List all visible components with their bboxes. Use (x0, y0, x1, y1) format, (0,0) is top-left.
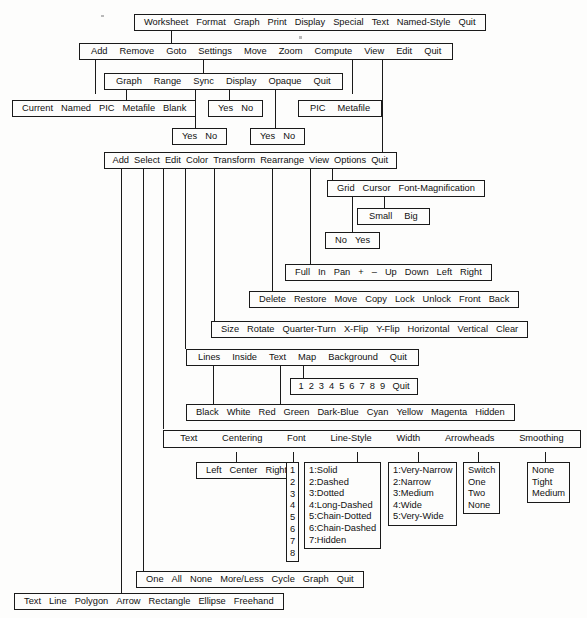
menu-item[interactable]: Yellow (392, 408, 427, 417)
menu-item[interactable]: Zoom (273, 47, 309, 56)
menu-item[interactable]: Remove (114, 47, 161, 56)
menu-item[interactable]: No (331, 236, 351, 245)
menu-item[interactable]: Restore (290, 295, 331, 304)
menu-box-view-format[interactable]: PIC Metafile (298, 100, 382, 117)
menu-box-palette[interactable]: Black White Red Green Dark-Blue Cyan Yel… (186, 404, 515, 421)
menu-item[interactable]: Graph (110, 77, 148, 86)
menu-box-sync-yesno[interactable]: Yes No (172, 128, 227, 145)
menu-item[interactable]: 4:Long-Dashed (309, 500, 376, 512)
menu-item[interactable]: Cycle (268, 575, 299, 584)
menu-item[interactable]: Green (280, 408, 314, 417)
menu-box-options[interactable]: Grid Cursor Font-Magnification (327, 180, 485, 197)
menu-item[interactable]: White (223, 408, 255, 417)
menu-item[interactable]: Quit (333, 575, 358, 584)
menu-item[interactable]: Switch (468, 465, 495, 477)
menu-item[interactable]: Black (192, 408, 223, 417)
menu-item[interactable]: 1 (296, 382, 306, 391)
menu-item[interactable]: Freehand (230, 597, 278, 606)
menu-item[interactable]: 2:Dashed (309, 477, 376, 489)
menu-item[interactable]: Small (363, 212, 398, 221)
menu-item[interactable]: X-Flip (340, 325, 372, 334)
menu-item[interactable]: Quarter-Turn (279, 325, 340, 334)
menu-box-map-numbers[interactable]: 1 2 3 4 5 6 7 8 9 Quit (290, 378, 418, 395)
menu-item[interactable]: Front (455, 295, 485, 304)
menu-item[interactable]: 8 (367, 382, 377, 391)
menu-item[interactable]: PIC (95, 104, 119, 113)
menu-box-edit[interactable]: Add Select Edit Color Transform Rearrang… (104, 152, 397, 169)
menu-box-arrowheads[interactable]: Switch One Two None (463, 462, 500, 514)
menu-item[interactable]: Ellipse (194, 597, 229, 606)
menu-item[interactable]: 1 (290, 465, 295, 477)
menu-item[interactable]: Rearrange (258, 156, 307, 165)
menu-box-view-pan[interactable]: Full In Pan + – Up Down Left Right (285, 264, 492, 281)
menu-item[interactable]: Left (202, 466, 226, 475)
menu-item[interactable]: Arrow (112, 597, 144, 606)
menu-item[interactable]: No (201, 132, 221, 141)
menu-item[interactable]: 2:Narrow (393, 477, 452, 489)
menu-box-add-objects[interactable]: Text Line Polygon Arrow Rectangle Ellips… (14, 593, 284, 610)
menu-item[interactable]: Edit (162, 156, 183, 165)
menu-item[interactable]: Yes (178, 132, 201, 141)
menu-item[interactable]: Quit (454, 18, 479, 27)
menu-item[interactable]: Add (110, 156, 132, 165)
menu-item[interactable]: Display (220, 77, 262, 86)
menu-item[interactable]: Big (398, 212, 423, 221)
menu-item[interactable]: Sync (187, 77, 220, 86)
menu-item[interactable]: 3 (316, 382, 326, 391)
menu-item[interactable]: Transform (211, 156, 258, 165)
menu-item[interactable]: Quit (308, 77, 337, 86)
menu-box-smoothing[interactable]: None Tight Medium (527, 462, 570, 503)
menu-item[interactable]: 4 (290, 500, 295, 512)
menu-item[interactable]: Right (456, 268, 486, 277)
menu-item[interactable]: Smoothing (519, 434, 563, 443)
menu-item[interactable]: More/Less (216, 575, 267, 584)
menu-item[interactable]: 5:Very-Wide (393, 511, 452, 523)
menu-item[interactable]: 2 (306, 382, 316, 391)
menu-item[interactable]: Quit (369, 156, 391, 165)
menu-item[interactable]: Full (291, 268, 314, 277)
menu-item[interactable]: Two (468, 488, 495, 500)
menu-item[interactable]: Line-Style (330, 434, 371, 443)
menu-box-main[interactable]: Worksheet Format Graph Print Display Spe… (134, 14, 486, 31)
menu-item[interactable]: No (237, 104, 257, 113)
menu-item[interactable]: PIC (304, 104, 332, 113)
menu-item[interactable]: Hidden (471, 408, 508, 417)
menu-item[interactable]: 5 (290, 512, 295, 524)
menu-item[interactable]: 6 (290, 524, 295, 536)
menu-item[interactable]: In (314, 268, 330, 277)
menu-item[interactable]: Options (332, 156, 369, 165)
menu-box-color[interactable]: Lines Inside Text Map Background Quit (186, 349, 419, 366)
menu-item[interactable]: None (186, 575, 216, 584)
menu-item[interactable]: Quit (388, 382, 413, 391)
menu-item[interactable]: + (354, 268, 367, 277)
menu-item[interactable]: 6:Chain-Dashed (309, 523, 376, 535)
menu-item[interactable]: Color (183, 156, 210, 165)
menu-item[interactable]: 4:Wide (393, 500, 452, 512)
menu-box-opaque-yesno[interactable]: Yes No (250, 128, 305, 145)
menu-box-select[interactable]: One All None More/Less Cycle Graph Quit (136, 571, 364, 588)
menu-item[interactable]: View (358, 47, 390, 56)
menu-item[interactable]: No (279, 132, 299, 141)
menu-item[interactable]: Graph (230, 18, 264, 27)
menu-item[interactable]: Format (192, 18, 229, 27)
menu-box-edit-attributes[interactable]: Text Centering Font Line-Style Width Arr… (163, 430, 581, 448)
menu-item[interactable]: Quit (418, 47, 447, 56)
menu-item[interactable]: Red (255, 408, 280, 417)
menu-item[interactable]: Magenta (427, 408, 471, 417)
menu-item[interactable]: 7 (290, 536, 295, 548)
menu-item[interactable]: All (168, 575, 186, 584)
menu-item[interactable]: None (532, 465, 565, 477)
menu-box-settings[interactable]: Graph Range Sync Display Opaque Quit (104, 73, 343, 90)
menu-item[interactable]: Compute (308, 47, 358, 56)
menu-item[interactable]: Grid (333, 184, 359, 193)
menu-item[interactable]: Delete (255, 295, 290, 304)
menu-item[interactable]: – (368, 268, 381, 277)
menu-item[interactable]: Inside (226, 353, 263, 362)
menu-box-font-numbers[interactable]: 1 2 3 4 5 6 7 8 (286, 462, 299, 562)
menu-item[interactable]: Display (291, 18, 329, 27)
menu-item[interactable]: Print (264, 18, 291, 27)
menu-item[interactable]: Font (287, 434, 306, 443)
menu-item[interactable]: Current (18, 104, 57, 113)
menu-item[interactable]: Arrowheads (445, 434, 495, 443)
menu-item[interactable]: Lines (192, 353, 226, 362)
